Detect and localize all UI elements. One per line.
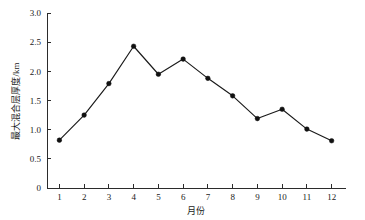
- plot-background: [0, 0, 365, 220]
- y-tick-label: 2.5: [30, 37, 42, 47]
- y-tick-label: 1.5: [30, 96, 42, 106]
- x-tick-label: 10: [278, 192, 288, 202]
- x-tick-label: 7: [206, 192, 211, 202]
- x-tick-label: 5: [156, 192, 161, 202]
- data-point-marker: [230, 94, 235, 99]
- data-point-marker: [329, 138, 334, 143]
- y-tick-label: 0.5: [30, 154, 42, 164]
- x-tick-label: 6: [181, 192, 186, 202]
- data-point-marker: [107, 81, 112, 86]
- x-tick-label: 4: [131, 192, 136, 202]
- y-tick-label: 1.0: [30, 125, 42, 135]
- y-tick-label: 2.0: [30, 67, 42, 77]
- data-point-marker: [305, 127, 310, 132]
- y-tick-label: 0: [37, 183, 42, 193]
- data-point-marker: [156, 72, 161, 77]
- line-chart: 00.51.01.52.02.53.0 123456789101112 月份 最…: [0, 0, 365, 220]
- x-tick-label: 3: [107, 192, 112, 202]
- y-axis-title: 最大混合层厚度/km: [10, 62, 21, 139]
- data-point-marker: [82, 113, 87, 118]
- data-point-marker: [57, 138, 62, 143]
- x-tick-label: 12: [327, 192, 336, 202]
- data-point-marker: [181, 57, 186, 62]
- data-point-marker: [255, 116, 260, 121]
- x-tick-label: 8: [230, 192, 235, 202]
- x-tick-label: 9: [255, 192, 260, 202]
- data-point-marker: [206, 76, 211, 81]
- x-tick-label: 1: [57, 192, 62, 202]
- data-point-marker: [131, 44, 136, 49]
- chart-container: 00.51.01.52.02.53.0 123456789101112 月份 最…: [0, 0, 365, 220]
- x-tick-label: 11: [303, 192, 312, 202]
- y-tick-label: 3.0: [30, 8, 42, 18]
- x-axis-title: 月份: [187, 205, 205, 216]
- x-tick-label: 2: [82, 192, 87, 202]
- data-point-marker: [280, 107, 285, 112]
